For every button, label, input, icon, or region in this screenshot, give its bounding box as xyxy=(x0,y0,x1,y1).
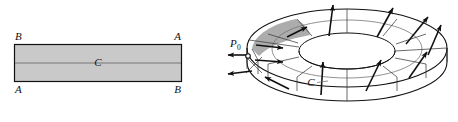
rectangle-corner-label-top-right: A xyxy=(173,30,181,42)
mobius-panel: P 0 C xyxy=(228,5,447,101)
rectangle-panel: B A A B C xyxy=(14,30,182,95)
normal-vector-front-1[interactable] xyxy=(321,62,323,95)
normal-vector-front-3[interactable] xyxy=(409,52,427,78)
mobius-point-p0-label-group: P 0 xyxy=(229,37,241,52)
mobius-shaded-patch-group xyxy=(252,19,310,56)
rectangle-corner-label-bottom-right: B xyxy=(174,83,181,95)
normal-vector-patch-b[interactable] xyxy=(255,60,283,62)
rectangle-corner-label-bottom-left: A xyxy=(14,83,22,95)
mobius-point-p0-label: P xyxy=(229,37,237,49)
figure-canvas: B A A B C xyxy=(0,0,458,122)
mobius-point-p0-subscript: 0 xyxy=(237,43,241,52)
normal-vector-back-3[interactable] xyxy=(406,17,428,44)
mobius-point-p0-marker xyxy=(246,54,251,59)
mobius-shaded-patch xyxy=(252,19,310,56)
rectangle-corner-label-top-left: B xyxy=(15,30,22,42)
rectangle-center-curve-label: C xyxy=(94,56,102,68)
mobius-curve-label: C xyxy=(307,76,315,88)
mobius-band-figure: B A A B C xyxy=(0,0,458,122)
normal-vector-p0-lower[interactable] xyxy=(228,71,252,74)
